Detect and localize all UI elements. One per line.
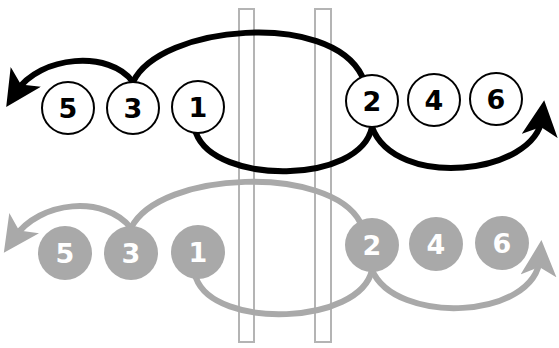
gray-arc-1-to-2-bottom <box>196 270 372 314</box>
node-top-5: 5 <box>42 82 94 134</box>
top-row-connections <box>16 33 542 172</box>
node-bottom-4: 4 <box>409 217 463 271</box>
top-row-nodes: 5 3 1 2 4 6 <box>42 73 522 134</box>
node-label: 3 <box>124 93 143 124</box>
node-label: 1 <box>189 237 208 268</box>
node-label: 5 <box>56 238 75 269</box>
node-label: 5 <box>59 93 78 124</box>
node-label: 2 <box>363 86 382 117</box>
vertical-bars <box>239 9 331 342</box>
node-label: 6 <box>487 84 506 115</box>
node-bottom-6: 6 <box>475 216 529 270</box>
node-bottom-3: 3 <box>104 226 158 280</box>
node-bottom-2: 2 <box>345 218 399 272</box>
node-top-3: 3 <box>107 82 159 134</box>
arc-3-to-2-top <box>133 33 362 82</box>
arc-1-to-2-bottom <box>196 127 372 171</box>
bottom-row-nodes: 5 3 1 2 4 6 <box>38 216 529 280</box>
vertical-bar-right <box>315 9 331 342</box>
node-bottom-1: 1 <box>171 225 225 279</box>
node-top-6: 6 <box>470 73 522 125</box>
arrow-2-right <box>372 118 542 168</box>
vertical-bar-left <box>239 9 254 342</box>
node-top-1: 1 <box>172 81 224 133</box>
node-label: 4 <box>425 85 444 116</box>
node-label: 1 <box>189 92 208 123</box>
node-top-4: 4 <box>408 74 460 126</box>
node-label: 6 <box>493 228 512 259</box>
node-bottom-5: 5 <box>38 226 92 280</box>
node-label: 3 <box>122 238 141 269</box>
gray-arc-3-to-2-top <box>131 182 360 228</box>
diagram-canvas: 5 3 1 2 4 6 5 <box>0 0 559 348</box>
node-label: 4 <box>427 229 446 260</box>
node-top-2: 2 <box>346 75 398 127</box>
node-label: 2 <box>363 230 382 261</box>
